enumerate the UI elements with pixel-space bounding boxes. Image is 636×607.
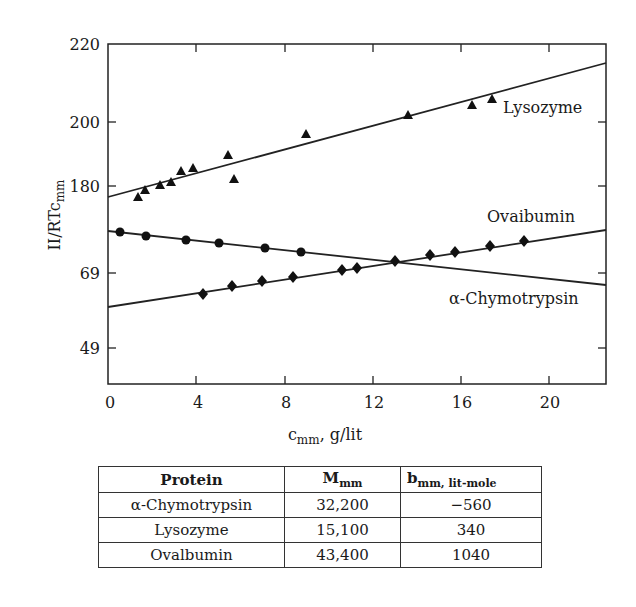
lysozyme-label: Lysozyme bbox=[503, 98, 582, 117]
diamond-marker bbox=[337, 264, 347, 276]
table-header-row: Protein Mmm bmm, lit-mole bbox=[99, 467, 542, 493]
diamond-marker bbox=[198, 288, 208, 300]
table-row: α-Chymotrypsin 32,200 −560 bbox=[99, 493, 542, 518]
cell-m: 43,400 bbox=[285, 543, 401, 568]
cell-protein: Lysozyme bbox=[99, 518, 285, 543]
triangle-marker bbox=[229, 174, 239, 183]
y-axis-title: II/RTcmm bbox=[45, 179, 67, 251]
x-tick-label: 16 bbox=[452, 393, 472, 412]
ovalbumin-label: Ovaibumin bbox=[487, 207, 575, 226]
diamond-marker bbox=[450, 246, 460, 258]
x-tick-label: 20 bbox=[540, 393, 560, 412]
x-tick-label: 4 bbox=[193, 393, 203, 412]
diamond-marker bbox=[227, 280, 237, 292]
protein-table: Protein Mmm bmm, lit-mole α-Chymotrypsin… bbox=[98, 466, 542, 568]
cell-b: −560 bbox=[401, 493, 542, 518]
circle-marker bbox=[215, 239, 224, 248]
header-b: bmm, lit-mole bbox=[401, 467, 542, 493]
x-tick-label: 8 bbox=[281, 393, 291, 412]
diamond-marker bbox=[425, 249, 435, 261]
chart: 220 200 180 69 49 0 4 8 12 16 20 cmm, g/… bbox=[0, 0, 636, 460]
circle-marker bbox=[261, 244, 270, 253]
diamond-marker bbox=[352, 262, 362, 274]
table-row: Ovalbumin 43,400 1040 bbox=[99, 543, 542, 568]
header-m: Mmm bbox=[285, 467, 401, 493]
circle-marker bbox=[142, 232, 151, 241]
triangle-marker bbox=[188, 163, 198, 172]
y-tick-label: 220 bbox=[69, 35, 100, 54]
y-axis bbox=[108, 122, 606, 348]
circle-marker bbox=[182, 236, 191, 245]
header-protein: Protein bbox=[99, 467, 285, 493]
triangle-marker bbox=[467, 100, 477, 109]
triangle-marker bbox=[176, 166, 186, 175]
circle-marker bbox=[116, 228, 125, 237]
y-tick-label: 69 bbox=[80, 264, 100, 283]
cell-b: 1040 bbox=[401, 543, 542, 568]
lysozyme-fit-line bbox=[108, 63, 606, 197]
diamond-marker bbox=[257, 275, 267, 287]
circle-marker bbox=[297, 248, 306, 257]
cell-b: 340 bbox=[401, 518, 542, 543]
x-tick-labels: 0 4 8 12 16 20 bbox=[105, 393, 560, 412]
chymotrypsin-label: α-Chymotrypsin bbox=[449, 289, 579, 308]
table-row: Lysozyme 15,100 340 bbox=[99, 518, 542, 543]
diamond-marker bbox=[485, 240, 495, 252]
x-axis-title: cmm, g/lit bbox=[288, 425, 363, 447]
cell-m: 15,100 bbox=[285, 518, 401, 543]
cell-m: 32,200 bbox=[285, 493, 401, 518]
triangle-marker bbox=[301, 129, 311, 138]
diamond-marker bbox=[390, 255, 400, 267]
y-tick-label: 200 bbox=[69, 113, 100, 132]
diamond-marker bbox=[288, 271, 298, 283]
diamond-marker bbox=[519, 235, 529, 247]
y-tick-label: 49 bbox=[80, 339, 100, 358]
y-tick-labels: 220 200 180 69 49 bbox=[69, 35, 100, 358]
cell-protein: Ovalbumin bbox=[99, 543, 285, 568]
x-tick-label: 0 bbox=[105, 393, 115, 412]
x-tick-label: 12 bbox=[364, 393, 384, 412]
y-tick-label: 180 bbox=[69, 177, 100, 196]
cell-protein: α-Chymotrypsin bbox=[99, 493, 285, 518]
triangle-marker bbox=[223, 150, 233, 159]
